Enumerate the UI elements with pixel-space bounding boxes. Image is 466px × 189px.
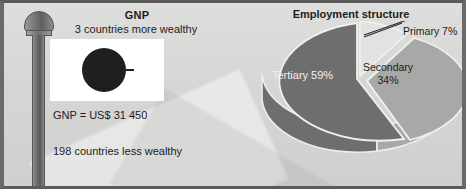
pie-chart-title: Employment structure	[266, 8, 436, 20]
pie-label-secondary: Secondary 34%	[356, 61, 420, 87]
gnp-tick-mark	[126, 69, 134, 71]
primary-leader-line-outer	[364, 23, 402, 37]
pie-label-primary: Primary 7%	[403, 25, 457, 37]
pie-label-tertiary: Tertiary 59%	[272, 69, 333, 81]
pie-leader-overlay	[252, 21, 462, 189]
figure-root: GNP 3 countries more wealthy GNP = US$ 3…	[0, 0, 466, 189]
pole-shaft	[32, 35, 45, 189]
gnp-subtitle: 3 countries more wealthy	[46, 23, 226, 35]
gnp-footer-text: 198 countries less wealthy	[53, 145, 182, 157]
pie-chart	[252, 21, 462, 189]
pie-label-secondary-name: Secondary	[356, 61, 420, 74]
pie-label-secondary-value: 34%	[356, 74, 420, 87]
gnp-dot-marker	[82, 48, 126, 92]
gnp-title: GNP	[62, 9, 212, 21]
gnp-value-text: GNP = US$ 31 450	[53, 109, 147, 121]
gnp-position-marker	[50, 39, 164, 101]
